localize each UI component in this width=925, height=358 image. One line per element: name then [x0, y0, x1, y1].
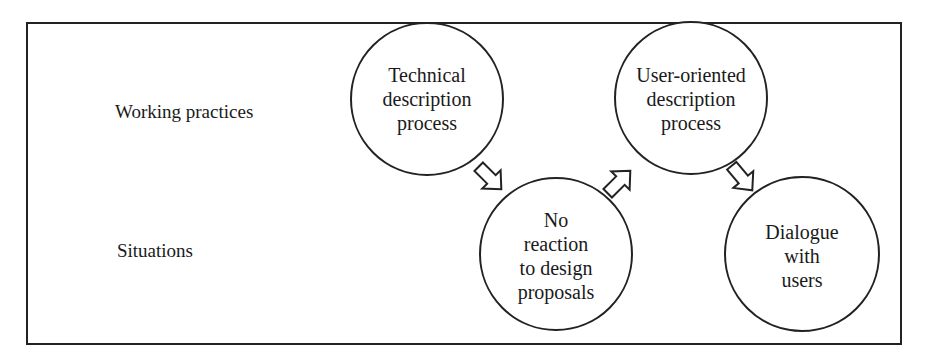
- node-label-line: to design: [518, 256, 595, 280]
- node-label-line: User-oriented: [636, 63, 746, 87]
- node-label-technical: Technical description process: [383, 63, 472, 135]
- node-label-line: with: [765, 244, 838, 268]
- node-label-line: description: [383, 87, 472, 111]
- node-label-line: users: [765, 268, 838, 292]
- node-label-line: proposals: [518, 280, 595, 304]
- node-label-line: No: [518, 208, 595, 232]
- node-label-line: Dialogue: [765, 220, 838, 244]
- node-label-line: process: [636, 111, 746, 135]
- node-label-no-reaction: No reaction to design proposals: [518, 208, 595, 304]
- diagram-graphics: [0, 0, 925, 358]
- arrow-icon-technical-to-no-reaction: [469, 157, 510, 198]
- node-label-line: reaction: [518, 232, 595, 256]
- node-label-line: description: [636, 87, 746, 111]
- node-label-line: process: [383, 111, 472, 135]
- node-label-line: Technical: [383, 63, 472, 87]
- node-label-dialogue: Dialogue with users: [765, 220, 838, 292]
- node-label-user-oriented: User-oriented description process: [636, 63, 746, 135]
